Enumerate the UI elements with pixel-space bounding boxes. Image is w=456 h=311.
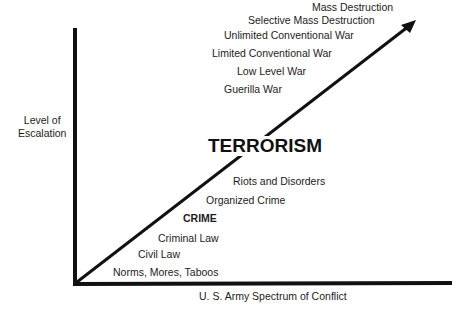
level-civil-law: Civil Law [138,248,180,260]
y-axis-label: Level of Escalation [18,114,66,140]
x-axis-line [73,283,452,284]
level-riots-and-disorders: Riots and Disorders [233,175,325,187]
level-norms-mores-taboos: Norms, Mores, Taboos [113,266,218,278]
level-low-level-war: Low Level War [237,65,306,77]
level-unlimited-conventional-war: Unlimited Conventional War [224,29,354,41]
escalation-diagram: Level of Escalation Mass Destruction Sel… [0,0,456,311]
y-axis-label-line1: Level of [18,114,66,127]
level-crime: CRIME [183,212,217,224]
level-mass-destruction: Mass Destruction [312,1,393,13]
level-criminal-law: Criminal Law [158,232,219,244]
level-limited-conventional-war: Limited Conventional War [212,47,332,59]
level-terrorism: TERRORISM [206,136,324,156]
x-axis-label: U. S. Army Spectrum of Conflict [199,290,347,302]
level-guerilla-war: Guerilla War [224,83,282,95]
level-selective-mass-destruction: Selective Mass Destruction [248,14,375,26]
level-organized-crime: Organized Crime [206,194,285,206]
y-axis-label-line2: Escalation [18,127,66,140]
